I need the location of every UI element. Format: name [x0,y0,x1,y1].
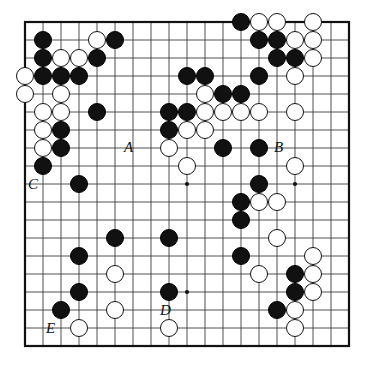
board-background [0,0,373,375]
star-point [185,74,189,78]
star-point [185,182,189,186]
star-point [77,182,81,186]
go-board-grid[interactable] [0,0,373,375]
star-point [185,290,189,294]
star-point [293,74,297,78]
star-point [293,290,297,294]
star-point [293,182,297,186]
star-point [77,290,81,294]
star-point [77,74,81,78]
go-board-figure: ABCDE [0,0,373,375]
